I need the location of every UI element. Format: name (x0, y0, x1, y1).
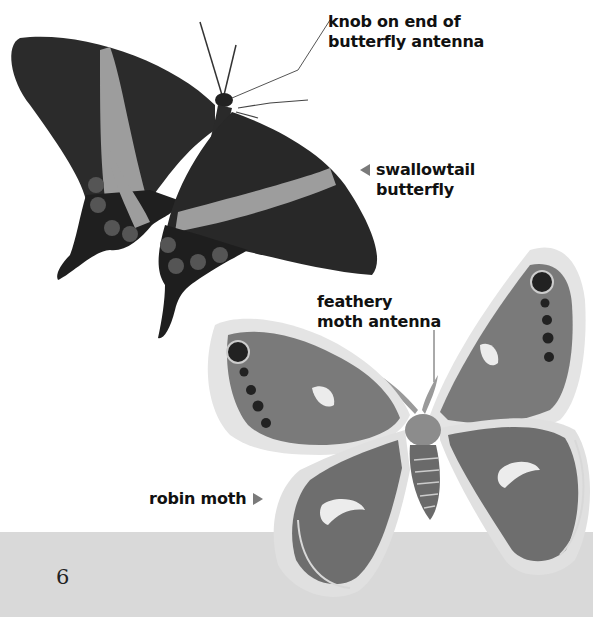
swallowtail-label-line1: swallowtail (376, 160, 475, 180)
left-arrow-icon (360, 164, 370, 176)
butterfly-antenna-label-line2: butterfly antenna (328, 32, 484, 52)
butterfly-antenna-label-line1: knob on end of (328, 12, 484, 32)
swallowtail-label-line2: butterfly (360, 180, 475, 200)
swallowtail-label: swallowtail butterfly (360, 160, 475, 200)
robin-moth-label: robin moth (149, 489, 263, 509)
moth-antenna-label-line2: moth antenna (317, 312, 441, 332)
right-arrow-icon (253, 493, 263, 505)
page-number: 6 (56, 565, 69, 589)
butterfly-antenna-label: knob on end of butterfly antenna (328, 12, 484, 52)
moth-antenna-label-line1: feathery (317, 292, 441, 312)
book-page: knob on end of butterfly antenna swallow… (0, 0, 593, 617)
moth-antenna-label: feathery moth antenna (317, 292, 441, 332)
insect-illustrations (0, 0, 593, 617)
swallowtail-butterfly-image (11, 20, 377, 338)
robin-moth-label-text: robin moth (149, 489, 247, 509)
